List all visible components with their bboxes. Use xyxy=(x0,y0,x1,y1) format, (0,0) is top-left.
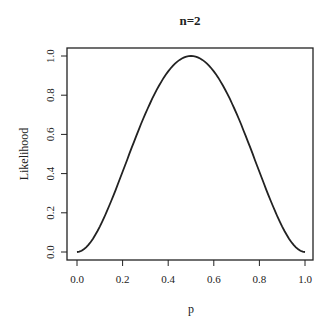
svg-text:0.8: 0.8 xyxy=(44,88,56,102)
chart-title: n=2 xyxy=(179,13,200,28)
svg-text:1.0: 1.0 xyxy=(298,273,312,285)
svg-text:0.6: 0.6 xyxy=(44,127,56,141)
y-axis: 0.00.20.40.60.81.0 xyxy=(44,49,67,259)
y-axis-label: Likelihood xyxy=(17,128,31,181)
svg-text:0.6: 0.6 xyxy=(207,273,221,285)
x-axis: 0.00.20.40.60.81.0 xyxy=(70,260,312,285)
svg-text:0.0: 0.0 xyxy=(70,273,84,285)
svg-text:0.4: 0.4 xyxy=(161,273,175,285)
svg-text:0.2: 0.2 xyxy=(44,206,56,220)
likelihood-chart: n=2 0.00.20.40.60.81.0 0.00.20.40.60.81.… xyxy=(0,0,333,329)
svg-text:0.2: 0.2 xyxy=(116,273,130,285)
svg-text:0.0: 0.0 xyxy=(44,245,56,259)
svg-text:0.4: 0.4 xyxy=(44,166,56,180)
likelihood-curve xyxy=(77,56,305,252)
svg-text:0.8: 0.8 xyxy=(253,273,267,285)
x-axis-label: p xyxy=(188,302,194,316)
svg-text:1.0: 1.0 xyxy=(44,49,56,63)
plot-frame xyxy=(67,48,313,260)
